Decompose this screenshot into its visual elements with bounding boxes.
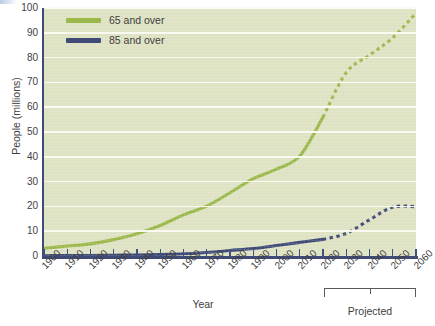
series-line-projected [323,13,416,117]
legend-item[interactable]: 65 and over [66,12,164,29]
x-tick [90,249,91,257]
x-tick [183,249,184,257]
gridline [44,57,416,59]
x-tick [67,249,68,257]
x-tick [299,249,300,257]
legend-swatch [66,18,101,23]
x-tick [276,249,277,257]
gridline [44,82,416,84]
x-axis-title: Year [168,298,238,310]
y-tick-label: 0 [4,251,38,261]
y-tick-label: 30 [4,177,38,187]
x-tick [253,249,254,257]
legend-item[interactable]: 85 and over [66,32,164,49]
x-tick [136,249,137,257]
x-tick [392,249,393,257]
legend-label: 85 and over [109,35,164,46]
bracket-right-arm [415,288,416,297]
gridline [44,106,416,108]
x-tick [346,249,347,257]
x-tick [369,249,370,257]
x-tick [43,249,44,257]
y-axis-line [42,8,44,258]
projected-bracket [324,288,416,299]
gridline [44,181,416,183]
series-line-actual [44,117,323,248]
gridline [44,7,416,9]
x-tick [322,249,323,257]
legend: 65 and over85 and over [66,12,164,52]
bracket-middle-tick [370,288,371,294]
series-line-projected [323,206,416,239]
legend-label: 65 and over [109,15,164,26]
y-tick-label: 100 [4,3,38,13]
gridline [44,206,416,208]
gridline [44,131,416,133]
y-tick-label: 10 [4,226,38,236]
y-tick-label: 90 [4,28,38,38]
bracket-left-arm [324,288,325,297]
x-tick [229,249,230,257]
y-tick-label: 20 [4,201,38,211]
x-tick [160,249,161,257]
gridline [44,156,416,158]
legend-swatch [66,38,101,44]
gridline [44,230,416,232]
x-tick [206,249,207,257]
projected-label: Projected [324,305,416,317]
x-tick [415,249,416,257]
y-axis-title: People (millions) [10,56,22,176]
x-tick [113,249,114,257]
